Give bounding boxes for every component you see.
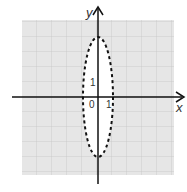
- x-tick-label: 1: [106, 99, 112, 110]
- x-axis-label: x: [175, 100, 183, 115]
- y-axis-label: y: [85, 5, 94, 20]
- origin-label: 0: [89, 99, 95, 110]
- coordinate-plane: x y 0 1 1: [0, 0, 187, 192]
- y-tick-label: 1: [90, 77, 96, 88]
